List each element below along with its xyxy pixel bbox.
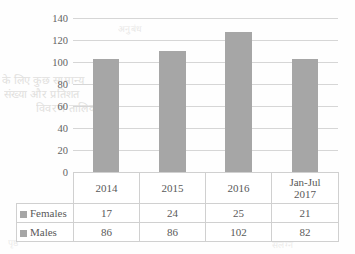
bar-column: [139, 18, 205, 172]
table-row: Females17242521: [17, 204, 339, 223]
legend-label: Males: [30, 226, 57, 238]
bar-series-group: [73, 18, 338, 172]
bar-column: [206, 18, 272, 172]
table-row: Males868610282: [17, 223, 339, 242]
legend-entry-females[interactable]: Females: [17, 204, 74, 223]
legend-entry-males[interactable]: Males: [17, 223, 74, 242]
plot-area: 140120100806040200: [0, 0, 355, 175]
y-axis-tick-label: 20: [36, 145, 68, 156]
bar-column: [272, 18, 338, 172]
bar-column: [73, 18, 139, 172]
category-header-cell: 2014: [74, 173, 140, 204]
bar-stacked[interactable]: [159, 51, 186, 172]
category-header-line: 2017: [272, 188, 338, 200]
category-header-cell: 2015: [140, 173, 206, 204]
legend-swatch-icon: [20, 230, 27, 237]
y-axis-tick-label: 140: [36, 13, 68, 24]
y-axis-tick-label: 40: [36, 123, 68, 134]
table-header-row: 201420152016Jan-Jul2017: [17, 173, 339, 204]
category-header-cell: Jan-Jul2017: [272, 173, 339, 204]
bar-stacked[interactable]: [225, 32, 252, 172]
table-value-cell: 86: [74, 223, 140, 242]
y-axis-tick-label: 120: [36, 35, 68, 46]
legend-swatch-icon: [20, 211, 27, 218]
category-header-line: Jan-Jul: [272, 176, 338, 188]
chart-container: के लिए कुछ सामान्य संख्या और प्रतिशत विव…: [0, 0, 355, 254]
category-header-line: 2015: [140, 182, 205, 194]
bar-stacked[interactable]: [93, 59, 120, 172]
table-value-cell: 82: [272, 223, 339, 242]
table-value-cell: 25: [206, 204, 272, 223]
category-header-cell: 2016: [206, 173, 272, 204]
table-value-cell: 24: [140, 204, 206, 223]
data-table-body: 201420152016Jan-Jul2017Females17242521Ma…: [17, 173, 339, 242]
y-axis-tick-label: 80: [36, 79, 68, 90]
table-corner-cell: [17, 173, 74, 204]
table-value-cell: 21: [272, 204, 339, 223]
table-value-cell: 17: [74, 204, 140, 223]
category-header-line: 2016: [206, 182, 271, 194]
bar-stacked[interactable]: [292, 59, 319, 172]
y-axis: 140120100806040200: [36, 12, 68, 172]
y-axis-tick-label: 100: [36, 57, 68, 68]
legend-label: Females: [30, 207, 67, 219]
table-value-cell: 102: [206, 223, 272, 242]
category-header-line: 2014: [74, 182, 139, 194]
table-value-cell: 86: [140, 223, 206, 242]
y-axis-tick-label: 60: [36, 101, 68, 112]
chart-data-table: 201420152016Jan-Jul2017Females17242521Ma…: [16, 172, 339, 242]
